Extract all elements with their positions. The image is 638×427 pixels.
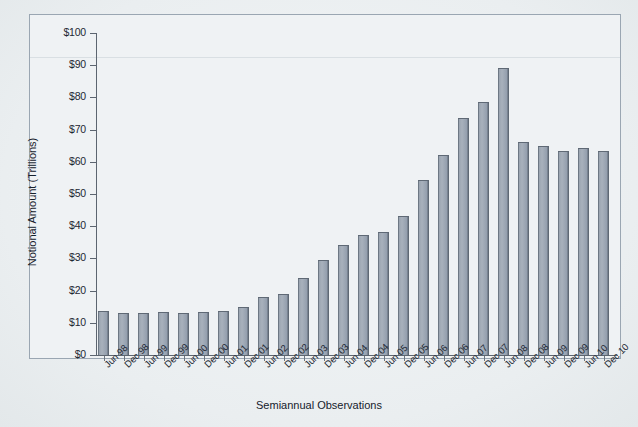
bar [378,232,389,355]
bar [558,151,569,355]
bar [418,180,429,355]
y-axis-tick-label: $100 [40,26,86,38]
y-axis-line [96,33,97,356]
y-axis-tick-label: $30 [40,251,86,263]
y-axis-title: Notional Amount (Trillions) [26,102,38,302]
bar [498,68,509,355]
bar [458,118,469,355]
y-axis-tick [90,97,96,98]
y-axis-tick-label: $20 [40,284,86,296]
bar [478,102,489,355]
y-axis-tick [90,162,96,163]
y-axis-tick-label: $0 [40,348,86,360]
x-axis-title: Semiannual Observations [0,399,638,411]
y-axis-tick-label: $40 [40,219,86,231]
y-axis-tick [90,194,96,195]
bar [598,151,609,355]
y-axis-tick-label: $90 [40,58,86,70]
y-axis-tick [90,130,96,131]
bar [398,216,409,355]
y-axis-tick-label: $50 [40,187,86,199]
y-axis-tick [90,291,96,292]
y-axis-tick [90,226,96,227]
y-axis-tick [90,355,96,356]
bar [438,155,449,355]
bar [318,260,329,355]
y-axis-tick [90,323,96,324]
bar [518,142,529,355]
y-axis-tick-label: $70 [40,123,86,135]
y-axis-tick [90,65,96,66]
y-axis-tick [90,258,96,259]
y-axis-tick [90,33,96,34]
bar [98,311,109,355]
bar [358,235,369,355]
y-axis-tick-label: $80 [40,90,86,102]
bar-chart-figure: $0$10$20$30$40$50$60$70$80$90$100 Jun 98… [0,0,638,427]
bar [338,245,349,355]
scan-artifact-line [30,57,620,58]
y-axis-tick-label: $10 [40,316,86,328]
bar [578,148,589,355]
y-axis-tick-label: $60 [40,155,86,167]
bar [538,146,549,355]
